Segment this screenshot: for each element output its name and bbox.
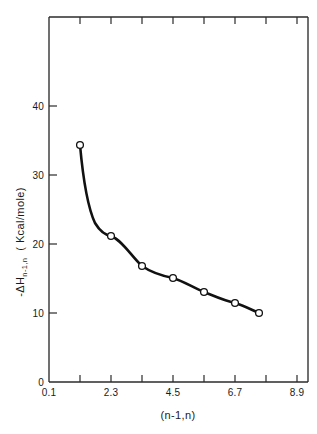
- y-axis-title: -ΔHn-1,n ( Kcal/mole): [14, 187, 29, 297]
- x-tick-label-4: 8.9: [290, 387, 305, 398]
- y-axis-ticks: [49, 106, 57, 313]
- y-axis-title-unit: ( Kcal/mole): [14, 187, 26, 250]
- y-tick-label-20: 20: [32, 239, 44, 250]
- svg-text:-ΔHn-1,n ( Kcal/mole): -ΔHn-1,n ( Kcal/mole): [14, 187, 29, 297]
- y-tick-label-30: 30: [32, 170, 44, 181]
- data-curve: [80, 145, 259, 313]
- x-tick-label-1: 2.3: [104, 387, 119, 398]
- x-axis-title: (n-1,n): [160, 409, 195, 421]
- x-tick-label-3: 6.7: [228, 387, 243, 398]
- top-axis-ticks: [80, 17, 297, 24]
- y-tick-label-40: 40: [32, 101, 44, 112]
- data-point: [201, 289, 208, 296]
- x-axis-ticks: [80, 375, 297, 382]
- data-point: [139, 263, 146, 270]
- y-tick-labels: 0 10 20 30 40: [32, 101, 44, 388]
- data-point: [232, 300, 239, 307]
- data-point: [170, 275, 177, 282]
- y-tick-label-10: 10: [32, 308, 44, 319]
- data-point: [256, 310, 263, 317]
- chart-figure: 0 10 20 30 40 0.1 2.3 4.5 6.7 8.9 (n-1,n…: [0, 0, 317, 434]
- x-tick-label-2: 4.5: [166, 387, 181, 398]
- x-tick-labels: 0.1 2.3 4.5 6.7 8.9: [42, 387, 305, 398]
- x-tick-label-0: 0.1: [42, 387, 57, 398]
- y-axis-title-main: -ΔH: [14, 277, 26, 297]
- data-point: [77, 142, 84, 149]
- data-point: [108, 233, 115, 240]
- data-markers: [77, 142, 263, 317]
- y-axis-title-sub: n-1,n: [20, 258, 29, 277]
